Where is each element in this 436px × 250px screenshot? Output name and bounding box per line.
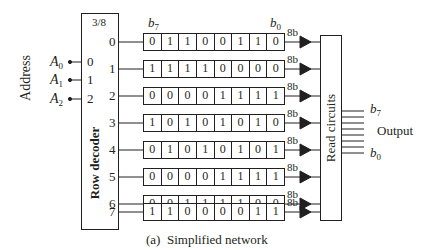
bit-cell: 0 <box>197 204 215 220</box>
figure-caption: (a) Simplified network <box>146 232 268 248</box>
decoder-output-7: 7 <box>109 204 116 220</box>
bit-cell: 1 <box>267 204 284 220</box>
bus-label-2: 8b <box>287 80 298 92</box>
bit-cell: 1 <box>162 142 180 158</box>
bit-cell: 0 <box>144 88 162 104</box>
decoder-output-5: 5 <box>109 169 116 185</box>
decoder-input-0: 0 <box>87 54 94 70</box>
bit-cell: 0 <box>144 34 162 50</box>
bus-label-4: 8b <box>287 134 298 146</box>
bit-cell: 1 <box>250 115 268 131</box>
address-line-a0: A0 <box>50 54 63 71</box>
decoder-output-0: 0 <box>109 34 116 50</box>
msb-label: b7 <box>148 15 159 32</box>
read-circuits-label: Read circuits <box>323 83 339 173</box>
bit-cell: 0 <box>179 88 197 104</box>
bit-cell: 1 <box>267 142 284 158</box>
bit-cell: 1 <box>232 34 250 50</box>
bus-label-7: 8b <box>287 196 298 208</box>
bus-label-3: 8b <box>287 107 298 119</box>
bit-cell: 1 <box>250 34 268 50</box>
bit-cell: 0 <box>215 34 233 50</box>
bit-cell: 0 <box>144 142 162 158</box>
bit-cell: 0 <box>162 169 180 185</box>
bit-cell: 0 <box>197 169 215 185</box>
bus-label-1: 8b <box>287 53 298 65</box>
bit-cell: 0 <box>197 34 215 50</box>
bit-cell: 1 <box>232 169 250 185</box>
bit-cell: 0 <box>267 115 284 131</box>
bit-cell: 1 <box>162 34 180 50</box>
bit-cell: 0 <box>250 61 268 77</box>
decoder-label: Row decoder <box>87 123 103 203</box>
bit-cell: 0 <box>179 169 197 185</box>
bit-cell: 1 <box>215 115 233 131</box>
bit-cell: 1 <box>250 88 268 104</box>
memory-row-7: 11000011 <box>143 203 285 221</box>
bit-cell: 0 <box>144 169 162 185</box>
address-line-a2: A2 <box>50 91 63 108</box>
decoder-output-3: 3 <box>109 115 116 131</box>
address-line-a1: A1 <box>50 72 63 89</box>
bit-cell: 1 <box>197 61 215 77</box>
bit-cell: 0 <box>215 61 233 77</box>
bus-label-5: 8b <box>287 161 298 173</box>
bit-cell: 1 <box>215 88 233 104</box>
decoder-output-2: 2 <box>109 88 116 104</box>
bit-cell: 1 <box>250 169 268 185</box>
bit-cell: 1 <box>197 142 215 158</box>
decoder-output-1: 1 <box>109 61 116 77</box>
memory-row-5: 00001111 <box>143 168 285 186</box>
bit-cell: 1 <box>162 61 180 77</box>
bit-cell: 0 <box>197 115 215 131</box>
decoder-input-1: 1 <box>87 72 94 88</box>
bit-cell: 1 <box>162 204 180 220</box>
bit-cell: 0 <box>267 61 284 77</box>
bit-cell: 1 <box>179 34 197 50</box>
bit-cell: 1 <box>179 61 197 77</box>
bit-cell: 0 <box>162 115 180 131</box>
address-label: Address <box>18 48 34 108</box>
bit-cell: 0 <box>232 61 250 77</box>
lsb-label: b0 <box>270 15 281 32</box>
memory-row-3: 10101010 <box>143 114 285 132</box>
decoder-title: 3/8 <box>92 16 106 28</box>
bit-cell: 1 <box>179 115 197 131</box>
output-lsb-label: b0 <box>370 145 381 162</box>
bit-cell: 0 <box>250 142 268 158</box>
bit-cell: 1 <box>267 88 284 104</box>
bus-label-0: 8b <box>287 26 298 38</box>
memory-row-1: 11110000 <box>143 60 285 78</box>
decoder-input-2: 2 <box>87 91 94 107</box>
bit-cell: 0 <box>215 204 233 220</box>
bit-cell: 1 <box>267 169 284 185</box>
bit-cell: 0 <box>179 204 197 220</box>
bit-cell: 0 <box>232 115 250 131</box>
bit-cell: 1 <box>232 88 250 104</box>
bit-cell: 0 <box>179 142 197 158</box>
bit-cell: 0 <box>215 142 233 158</box>
bit-cell: 0 <box>232 204 250 220</box>
bit-cell: 1 <box>144 204 162 220</box>
bit-cell: 1 <box>250 204 268 220</box>
output-label: Output <box>377 123 413 139</box>
bit-cell: 0 <box>162 88 180 104</box>
memory-row-2: 00001111 <box>143 87 285 105</box>
bit-cell: 0 <box>197 88 215 104</box>
memory-row-0: 01100110 <box>143 33 285 51</box>
bit-cell: 1 <box>215 169 233 185</box>
memory-row-4: 01010101 <box>143 141 285 159</box>
decoder-output-4: 4 <box>109 142 116 158</box>
bit-cell: 1 <box>144 61 162 77</box>
output-msb-label: b7 <box>370 101 381 118</box>
bit-cell: 0 <box>267 34 284 50</box>
bit-cell: 1 <box>144 115 162 131</box>
bit-cell: 1 <box>232 142 250 158</box>
